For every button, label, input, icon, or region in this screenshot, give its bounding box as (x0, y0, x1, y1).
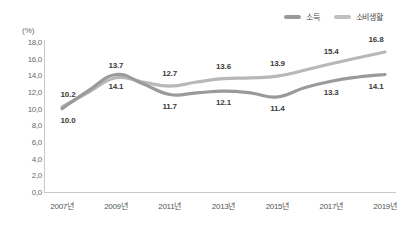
data-point-label: 12.1 (216, 98, 231, 107)
data-point-label: 15.4 (324, 47, 339, 56)
data-point-label: 11.4 (270, 104, 284, 113)
data-point-label: 10.0 (61, 116, 76, 125)
data-point-label: 13.9 (270, 59, 285, 68)
data-point-label: 14.1 (108, 82, 123, 91)
data-point-label: 13.6 (216, 62, 231, 71)
data-point-label: 14.1 (369, 82, 384, 91)
data-point-label: 12.7 (162, 69, 177, 78)
data-point-label: 10.2 (61, 90, 76, 99)
line-chart: 소득 소비생활 (%) 18,016,014,012,010,08,06,04,… (0, 0, 401, 234)
data-point-label: 13.7 (108, 61, 123, 70)
data-point-label: 13.3 (324, 88, 339, 97)
data-point-label: 11.7 (162, 102, 176, 111)
data-point-label: 16.8 (369, 35, 384, 44)
